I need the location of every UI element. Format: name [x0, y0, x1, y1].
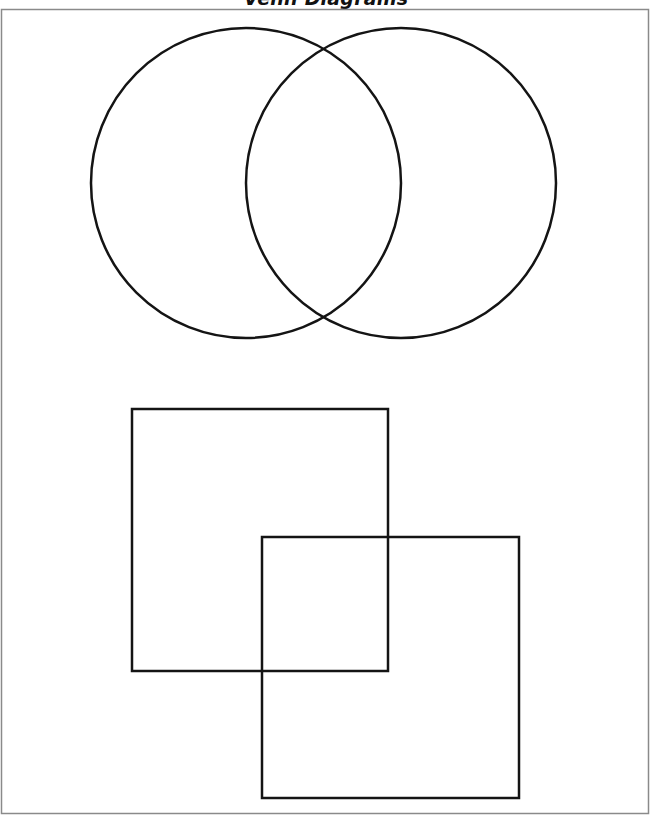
- venn-diagram-canvas: [0, 0, 652, 818]
- top-left-square: [132, 409, 388, 671]
- page-border: [2, 10, 649, 814]
- bottom-right-square: [262, 537, 519, 798]
